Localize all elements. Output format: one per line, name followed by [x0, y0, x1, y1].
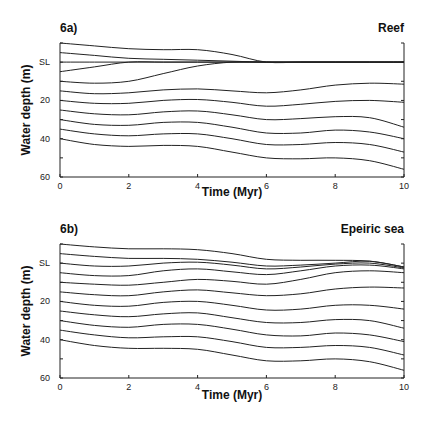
- x-tick-label: 2: [126, 382, 131, 392]
- y-tick-label: 60: [40, 373, 50, 383]
- curves: [60, 43, 404, 169]
- depth-curve-line-6: [60, 83, 404, 94]
- chart-canvas: 6a) Reef Time (Myr) Water depth (m) 0246…: [0, 0, 429, 426]
- x-tick-label: 0: [57, 181, 62, 191]
- x-tick-label: 10: [399, 181, 409, 191]
- y-tick-label: 40: [40, 134, 50, 144]
- axis-frame: [60, 244, 404, 378]
- panel-6a: 6a) Reef Time (Myr) Water depth (m) 0246…: [19, 21, 409, 199]
- panel-title: Reef: [378, 21, 405, 35]
- x-tick-label: 6: [264, 181, 269, 191]
- x-tick-label: 4: [195, 181, 200, 191]
- y-tick-label: SL: [39, 258, 50, 268]
- y-axis-label: Water depth (m): [19, 65, 33, 156]
- depth-curve-line-9: [60, 120, 404, 139]
- y-tick-label: SL: [39, 57, 50, 67]
- depth-curve-line-11: [60, 340, 404, 371]
- figure: 6a) Reef Time (Myr) Water depth (m) 0246…: [0, 0, 429, 426]
- x-tick-label: 6: [264, 382, 269, 392]
- depth-curve-line-7: [60, 99, 404, 106]
- x-tick-label: 0: [57, 382, 62, 392]
- depth-curve-line-10: [60, 129, 404, 152]
- panel-label: 6a): [60, 21, 77, 35]
- x-tick-label: 10: [399, 382, 409, 392]
- x-tick-label: 8: [333, 181, 338, 191]
- depth-curve-line-9: [60, 321, 404, 342]
- depth-curve-line-8: [60, 311, 404, 328]
- depth-curve-line-1: [60, 43, 404, 63]
- x-tick-label: 4: [195, 382, 200, 392]
- y-tick-label: 20: [40, 296, 50, 306]
- depth-curve-line-7: [60, 301, 404, 310]
- x-tick-label: 8: [333, 382, 338, 392]
- depth-curve-line-8: [60, 110, 404, 127]
- depth-curve-line-6: [60, 287, 404, 296]
- panel-title: Epeiric sea: [341, 222, 405, 236]
- panel-label: 6b): [60, 222, 78, 236]
- panel-6b: 6b) Epeiric sea Time (Myr) Water depth (…: [19, 222, 409, 402]
- x-axis-label: Time (Myr): [202, 185, 262, 199]
- axis-frame: [60, 43, 404, 177]
- x-axis-label: Time (Myr): [202, 388, 262, 402]
- x-tick-label: 2: [126, 181, 131, 191]
- y-axis-label: Water depth (m): [19, 266, 33, 357]
- y-tick-label: 60: [40, 172, 50, 182]
- depth-curve-line-5: [60, 271, 404, 285]
- depth-curve-line-4: [60, 62, 404, 72]
- depth-curve-line-5: [60, 62, 404, 83]
- y-tick-label: 20: [40, 95, 50, 105]
- y-tick-label: 40: [40, 335, 50, 345]
- curves: [60, 244, 404, 370]
